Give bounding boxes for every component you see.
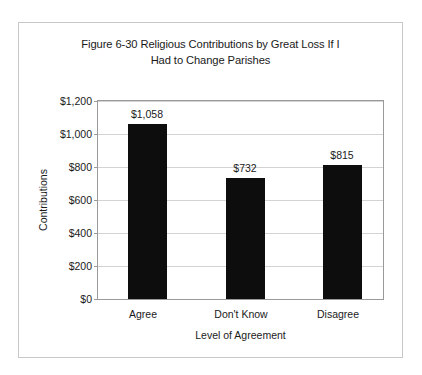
chart-title-line-1: Figure 6-30 Religious Contributions by G… (18, 36, 403, 52)
y-tick-mark (94, 167, 98, 168)
bar-value-dont-know: $732 (210, 162, 280, 174)
bar-value-disagree: $815 (307, 149, 377, 161)
x-axis-title: Level of Agreement (97, 329, 384, 341)
x-tick-label-disagree: Disagree (290, 308, 386, 320)
y-tick-label-800: $800 (69, 161, 92, 173)
y-tick-mark (94, 266, 98, 267)
y-tick-label-600: $600 (69, 194, 92, 206)
y-tick-mark (94, 134, 98, 135)
bar-dont-know (226, 178, 265, 299)
chart-title: Figure 6-30 Religious Contributions by G… (18, 36, 403, 68)
x-tick-label-dont-know: Don't Know (193, 308, 289, 320)
bar-agree (128, 124, 167, 299)
y-tick-label-1000: $1,000 (60, 128, 92, 140)
gridline (98, 101, 383, 102)
y-tick-mark (94, 101, 98, 102)
plot-area: $1,200 $1,000 $800 $600 $400 $200 $0 $1,… (97, 100, 384, 300)
y-tick-label-200: $200 (69, 260, 92, 272)
x-tick-label-agree: Agree (95, 308, 191, 320)
y-tick-mark (94, 200, 98, 201)
y-tick-label-400: $400 (69, 227, 92, 239)
y-tick-mark (94, 233, 98, 234)
y-tick-mark (94, 299, 98, 300)
y-tick-label-0: $0 (80, 293, 92, 305)
bar-disagree (323, 165, 362, 299)
chart-title-line-2: Had to Change Parishes (18, 52, 403, 68)
y-tick-label-1200: $1,200 (60, 95, 92, 107)
bar-value-agree: $1,058 (112, 108, 182, 120)
